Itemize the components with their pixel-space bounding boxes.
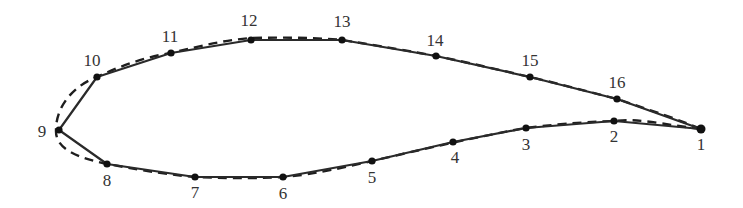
node-9 [55, 126, 62, 133]
node-label-15: 15 [522, 51, 539, 70]
airfoil-diagram: 12345678910111213141516 [0, 0, 743, 208]
node-label-3: 3 [522, 135, 531, 154]
node-label-11: 11 [162, 27, 178, 46]
node-label-1: 1 [697, 135, 706, 154]
node-11 [167, 49, 174, 56]
airfoil-svg: 12345678910111213141516 [0, 0, 743, 208]
node-12 [247, 36, 254, 43]
node-label-10: 10 [84, 51, 101, 70]
node-label-4: 4 [451, 148, 460, 167]
node-6 [279, 173, 286, 180]
node-14 [432, 52, 439, 59]
panel-polygon [59, 40, 701, 177]
node-label-8: 8 [103, 171, 112, 190]
node-10 [93, 73, 100, 80]
node-15 [526, 73, 533, 80]
node-3 [522, 124, 529, 131]
node-7 [191, 173, 198, 180]
node-4 [449, 138, 456, 145]
node-label-6: 6 [279, 184, 288, 203]
node-label-5: 5 [368, 168, 377, 187]
node-label-14: 14 [427, 31, 445, 50]
node-label-12: 12 [241, 11, 258, 30]
node-16 [613, 95, 620, 102]
node-8 [103, 160, 110, 167]
node-label-16: 16 [609, 73, 626, 92]
node-label-13: 13 [334, 12, 351, 31]
node-13 [338, 36, 345, 43]
node-1 [697, 125, 706, 134]
node-label-9: 9 [38, 122, 47, 141]
node-label-7: 7 [191, 183, 200, 202]
node-5 [368, 157, 375, 164]
node-label-2: 2 [610, 127, 619, 146]
label-group: 12345678910111213141516 [38, 11, 706, 203]
node-2 [610, 117, 617, 124]
